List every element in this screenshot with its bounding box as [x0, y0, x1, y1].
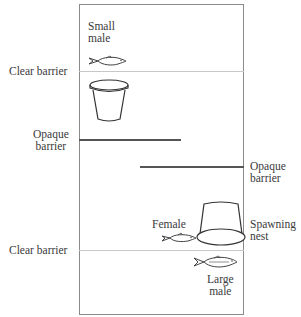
- large-male-label: Large male: [207, 273, 234, 297]
- clear-barrier-top-label: Clear barrier: [9, 65, 67, 77]
- flowerpot-icon: [88, 79, 130, 123]
- clear-barrier-bottom: [79, 250, 244, 251]
- opaque-barrier-right-label: Opaque barrier: [250, 160, 286, 184]
- small-male-fish-icon: [88, 55, 128, 67]
- small-male-label: Small male: [88, 20, 115, 44]
- spawning-nest-label: Spawning nest: [250, 218, 296, 242]
- female-fish-icon: [161, 232, 197, 244]
- female-label: Female: [152, 218, 186, 230]
- opaque-barrier-left-label: Opaque barrier: [33, 128, 69, 152]
- opaque-barrier-left: [79, 139, 181, 141]
- opaque-barrier-right: [140, 166, 244, 168]
- clear-barrier-top: [79, 71, 244, 72]
- clear-barrier-bottom-label: Clear barrier: [9, 244, 67, 256]
- large-male-fish-icon: [193, 255, 239, 269]
- spawning-nest-icon: [194, 200, 248, 248]
